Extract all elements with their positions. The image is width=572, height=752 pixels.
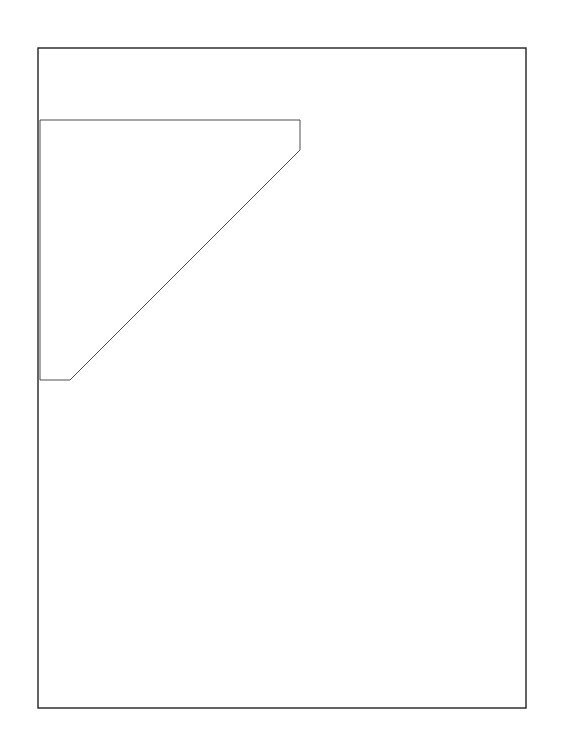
psychrometric-chart — [0, 0, 572, 752]
